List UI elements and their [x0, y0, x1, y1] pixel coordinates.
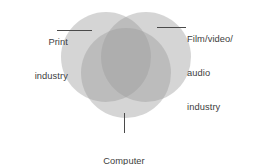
- venn-circle-computer: [81, 28, 171, 118]
- venn-diagram-figure: Print industry Film/video/ audio industr…: [0, 0, 254, 165]
- label-print-industry: Print industry: [6, 15, 68, 105]
- label-film-video-audio-industry-line-3: industry: [187, 102, 253, 113]
- label-film-video-audio-industry-line-2: audio: [187, 68, 253, 79]
- label-film-video-audio-industry: Film/video/ audio industry: [187, 12, 253, 135]
- label-print-industry-line-2: industry: [6, 71, 68, 82]
- label-computer-industry: Computer industry: [82, 134, 166, 165]
- label-film-video-audio-industry-line-1: Film/video/: [187, 34, 253, 45]
- label-computer-industry-line-1: Computer: [82, 156, 166, 165]
- label-print-industry-line-1: Print: [6, 37, 68, 48]
